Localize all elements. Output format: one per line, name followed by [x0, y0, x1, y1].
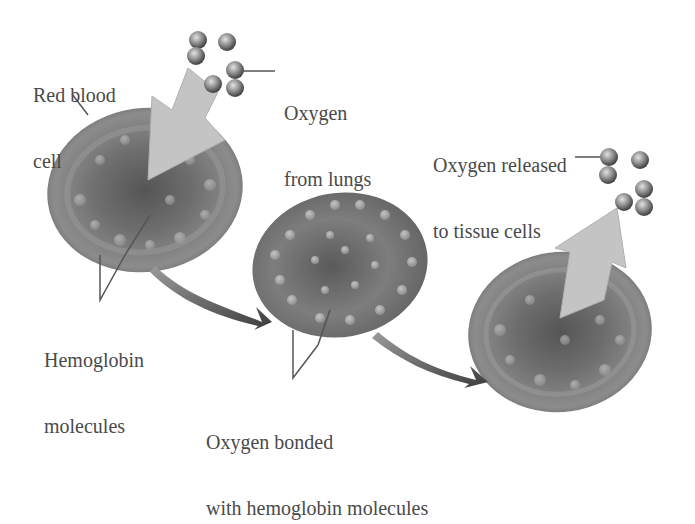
oxygen-molecules-released — [599, 148, 653, 216]
label-line: Oxygen — [284, 102, 371, 124]
label-line: Hemoglobin — [44, 349, 144, 371]
label-line: Red blood — [33, 84, 116, 106]
label-oxygen-from-lungs: Oxygen from lungs — [284, 58, 371, 234]
label-line: Oxygen released — [433, 154, 567, 176]
label-line: cell — [33, 150, 116, 172]
label-line: from lungs — [284, 168, 371, 190]
label-hemoglobin: Hemoglobin molecules — [44, 305, 144, 481]
label-line: with hemoglobin molecules — [206, 497, 428, 519]
label-line: molecules — [44, 415, 144, 437]
label-oxygen-released: Oxygen released to tissue cells — [433, 110, 567, 286]
label-red-blood-cell: Red blood cell — [33, 40, 116, 216]
label-line: Oxygen bonded — [206, 431, 428, 453]
label-oxygen-bonded: Oxygen bonded with hemoglobin molecules — [206, 387, 428, 524]
label-line: to tissue cells — [433, 220, 567, 242]
